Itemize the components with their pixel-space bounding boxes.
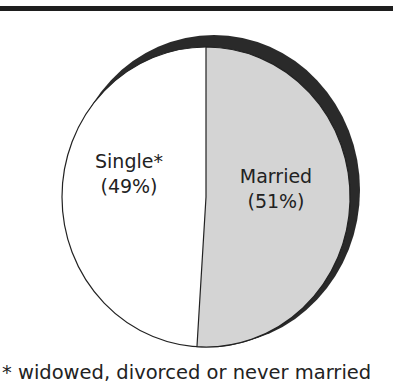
single-label: Single* [95, 150, 163, 172]
married-label: Married [240, 165, 312, 187]
pie-chart: Single* (49%) Married (51%) [0, 0, 393, 391]
married-percent: (51%) [247, 190, 304, 212]
footnote: * widowed, divorced or never married [2, 361, 371, 384]
single-percent: (49%) [100, 175, 157, 197]
